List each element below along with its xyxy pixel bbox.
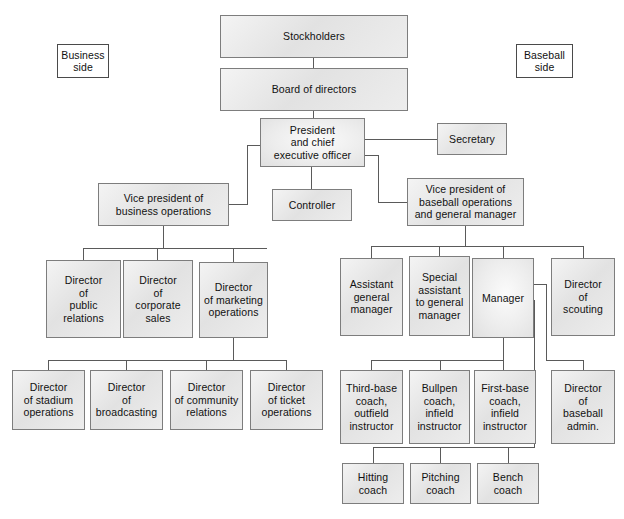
- node-third-base-coach-label: Third-base coach, outfield instructor: [343, 382, 400, 432]
- node-bullpen-coach-label: Bullpen coach, infield instructor: [412, 382, 467, 432]
- node-assistant-general-manager-label: Assistant general manager: [343, 278, 400, 316]
- node-manager[interactable]: Manager: [472, 258, 534, 338]
- node-president[interactable]: President and chief executive officer: [260, 118, 365, 167]
- node-hitting-coach[interactable]: Hitting coach: [342, 463, 404, 504]
- org-chart: Business side Baseball side Stockholders…: [0, 0, 624, 519]
- node-special-assistant-to-general-manager[interactable]: Special assistant to general manager: [409, 256, 470, 336]
- node-director-corporate-sales-label: Director of corporate sales: [126, 274, 190, 324]
- node-director-community-relations-label: Director of community relations: [173, 381, 240, 419]
- node-board-of-directors[interactable]: Board of directors: [220, 68, 408, 111]
- side-label-business-text: Business side: [60, 49, 106, 74]
- node-director-baseball-admin[interactable]: Director of baseball admin.: [551, 370, 615, 444]
- side-label-baseball-text: Baseball side: [519, 49, 570, 74]
- node-assistant-general-manager[interactable]: Assistant general manager: [340, 258, 403, 336]
- node-director-broadcasting[interactable]: Director of broadcasting: [90, 370, 163, 430]
- node-director-public-relations-label: Director of public relations: [49, 274, 118, 324]
- node-director-marketing-operations-label: Director of marketing operations: [202, 281, 265, 319]
- node-director-baseball-admin-label: Director of baseball admin.: [554, 382, 612, 432]
- node-stockholders[interactable]: Stockholders: [220, 15, 408, 58]
- side-label-business: Business side: [57, 44, 109, 78]
- node-pitching-coach[interactable]: Pitching coach: [410, 463, 471, 504]
- node-first-base-coach[interactable]: First-base coach, infield instructor: [474, 370, 536, 444]
- node-first-base-coach-label: First-base coach, infield instructor: [477, 382, 533, 432]
- node-secretary[interactable]: Secretary: [437, 123, 507, 155]
- node-controller[interactable]: Controller: [272, 189, 352, 221]
- node-vp-business-operations-label: Vice president of business operations: [101, 192, 226, 217]
- node-manager-label: Manager: [475, 292, 531, 305]
- node-director-community-relations[interactable]: Director of community relations: [170, 370, 243, 430]
- node-director-scouting[interactable]: Director of scouting: [551, 258, 615, 336]
- node-board-of-directors-label: Board of directors: [223, 83, 405, 96]
- node-director-broadcasting-label: Director of broadcasting: [93, 381, 160, 419]
- node-director-scouting-label: Director of scouting: [554, 278, 612, 316]
- node-director-corporate-sales[interactable]: Director of corporate sales: [123, 260, 193, 338]
- node-controller-label: Controller: [275, 199, 349, 212]
- node-vp-baseball-operations[interactable]: Vice president of baseball operations an…: [407, 178, 524, 226]
- node-president-label: President and chief executive officer: [263, 124, 362, 162]
- node-bench-coach[interactable]: Bench coach: [477, 463, 539, 504]
- node-vp-business-operations[interactable]: Vice president of business operations: [98, 183, 229, 226]
- node-bullpen-coach[interactable]: Bullpen coach, infield instructor: [409, 370, 470, 444]
- side-label-baseball: Baseball side: [516, 44, 573, 78]
- node-director-stadium-operations-label: Director of stadium operations: [15, 381, 82, 419]
- node-director-public-relations[interactable]: Director of public relations: [46, 260, 121, 338]
- node-stockholders-label: Stockholders: [223, 30, 405, 43]
- node-secretary-label: Secretary: [440, 133, 504, 146]
- node-director-ticket-operations-label: Director of ticket operations: [253, 381, 320, 419]
- node-director-marketing-operations[interactable]: Director of marketing operations: [199, 262, 268, 338]
- node-third-base-coach[interactable]: Third-base coach, outfield instructor: [340, 370, 403, 444]
- node-vp-baseball-operations-label: Vice president of baseball operations an…: [410, 183, 521, 221]
- node-pitching-coach-label: Pitching coach: [413, 471, 468, 496]
- node-director-ticket-operations[interactable]: Director of ticket operations: [250, 370, 323, 430]
- node-hitting-coach-label: Hitting coach: [345, 471, 401, 496]
- node-special-assistant-to-general-manager-label: Special assistant to general manager: [412, 271, 467, 321]
- node-bench-coach-label: Bench coach: [480, 471, 536, 496]
- node-director-stadium-operations[interactable]: Director of stadium operations: [12, 370, 85, 430]
